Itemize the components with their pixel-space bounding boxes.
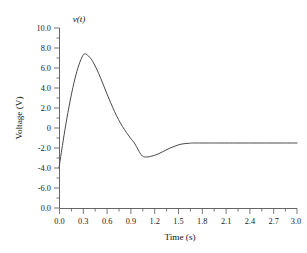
x-tick-label: 0.6	[102, 217, 112, 226]
y-tick-label: 0	[47, 124, 51, 133]
x-tick-label: 2.1	[221, 217, 231, 226]
x-tick-label: 1.8	[197, 217, 207, 226]
y-tick-label: -4.0	[38, 164, 51, 173]
x-tick-label: 2.7	[269, 217, 279, 226]
y-tick-label: -2.0	[38, 144, 51, 153]
y-tick-label: 6.0	[41, 64, 51, 73]
y-tick-label: 2.0	[41, 104, 51, 113]
x-tick-label: 1.2	[150, 217, 160, 226]
x-tick-label: 2.4	[245, 217, 256, 226]
y-axis-title: Voltage (V)	[14, 97, 24, 140]
x-tick-label: 0.9	[126, 217, 136, 226]
y-tick-label: 10.0	[36, 24, 51, 33]
y-tick-label: 8.0	[41, 44, 51, 53]
y-tick-label: 0.0	[41, 204, 51, 213]
chart-figure: 10.0 8.0 6.0 4.0 2.0 0 -2.0 -4.0 -6.0 0.…	[0, 0, 307, 253]
x-tick-label: 0.3	[78, 217, 88, 226]
y-tick-label: -6.0	[38, 184, 51, 193]
y-tick-label: 4.0	[41, 84, 51, 93]
voltage-time-line-chart: 10.0 8.0 6.0 4.0 2.0 0 -2.0 -4.0 -6.0 0.…	[0, 0, 307, 253]
x-axis-title: Time (s)	[164, 232, 195, 242]
x-tick-label: 3.0	[291, 217, 301, 226]
x-tick-label: 0.0	[54, 217, 64, 226]
chart-title: v(t)	[73, 14, 86, 24]
x-tick-label: 1.5	[173, 217, 183, 226]
